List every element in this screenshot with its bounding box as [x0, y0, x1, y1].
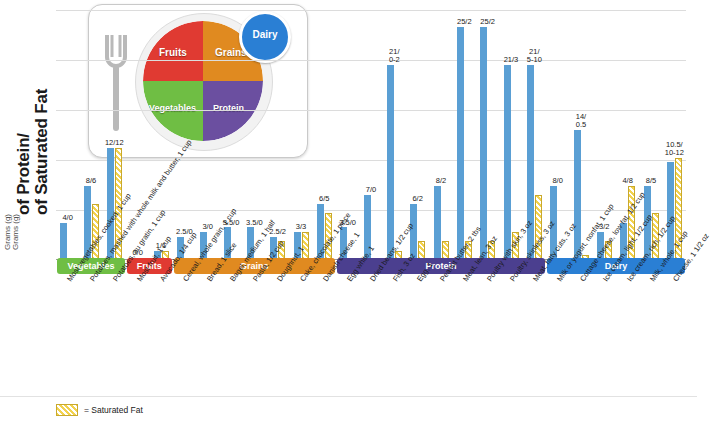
bar-value-label: 6/5	[319, 195, 329, 204]
bar-value-label: 3/3	[296, 223, 306, 232]
bar-value-label: 4/8	[622, 177, 632, 186]
bar-value-label: 6/2	[412, 195, 422, 204]
bar-saturated-fat	[302, 232, 309, 260]
footer-divider	[0, 396, 697, 397]
bar-value-label: 21/5-10	[527, 48, 542, 65]
bar-protein	[574, 130, 581, 260]
legend-label-saturated-fat: = Saturated Fat	[84, 405, 143, 415]
bar-value-label: 8/0	[552, 177, 562, 186]
bar-value-label: 21/3	[504, 56, 519, 65]
bar-protein	[504, 65, 511, 260]
bar-protein	[60, 223, 67, 260]
bar-protein	[434, 186, 441, 260]
bar-value-label: 21/0-2	[389, 48, 400, 65]
x-axis-tick-labels: Most vegetables, cooked, 1 cupPotatoes, …	[0, 276, 697, 396]
bar-protein	[480, 27, 487, 260]
bar-value-label: 12/12	[105, 139, 124, 148]
bar-value-label: 8/2	[436, 177, 446, 186]
y-axis-label-line1: of Protein/	[14, 133, 34, 215]
bar-value-label: 3.5/0	[246, 219, 263, 228]
bar-value-label: 14/0.5	[576, 113, 586, 130]
bar-protein	[387, 65, 394, 260]
bar-value-label: 4/0	[62, 214, 72, 223]
bar-group: 25/2	[455, 27, 473, 260]
bar-value-label: 10.5/10-12	[665, 141, 684, 158]
y-axis-label: of Protein/ of Saturated Fat Grams (g) G…	[0, 0, 38, 260]
bar-value-label: 3/0	[202, 223, 212, 232]
legend-swatch-saturated-fat	[56, 404, 78, 416]
bar-value-label: 25/2	[457, 18, 472, 27]
chart-legend: = Saturated Fat	[56, 404, 143, 416]
bar-group: 8/2	[432, 186, 450, 260]
bar-group: 25/2	[479, 27, 497, 260]
bar-protein	[457, 27, 464, 260]
bar-group: 4/0	[59, 223, 77, 260]
bar-value-label: 25/2	[480, 18, 495, 27]
y-axis-label-line2: of Saturated Fat	[32, 89, 52, 215]
bar-value-label: 8/6	[86, 177, 96, 186]
bar-value-label: 7/0	[366, 186, 376, 195]
bar-value-label: 8/5	[646, 177, 656, 186]
y-axis-unit-2: Grams (g)	[11, 214, 20, 250]
